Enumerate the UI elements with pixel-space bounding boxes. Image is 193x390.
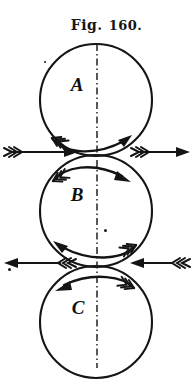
velocity-arrow-ab-right xyxy=(131,147,190,157)
circle-label-a: A xyxy=(62,74,92,96)
rotation-arrow-b-top xyxy=(51,167,131,185)
rotation-arrow-c-top xyxy=(55,277,136,293)
rotation-arrow-b-bottom xyxy=(53,241,138,258)
ink-speck-3 xyxy=(44,61,46,63)
ink-speck-1 xyxy=(104,229,107,232)
ink-speck-2 xyxy=(8,268,11,271)
circle-b xyxy=(40,155,152,267)
velocity-arrow-bc-right xyxy=(130,258,190,268)
figure-illustration: Fig.160. xyxy=(0,0,193,390)
circle-c xyxy=(40,266,152,378)
velocity-arrow-ab-left xyxy=(4,147,78,157)
velocity-arrow-bc-left xyxy=(4,258,76,268)
rotation-arrow-a-bottom xyxy=(50,134,132,152)
circle-label-c: C xyxy=(63,297,93,319)
circle-label-b: B xyxy=(62,184,92,206)
three-rollers-diagram xyxy=(0,0,193,390)
